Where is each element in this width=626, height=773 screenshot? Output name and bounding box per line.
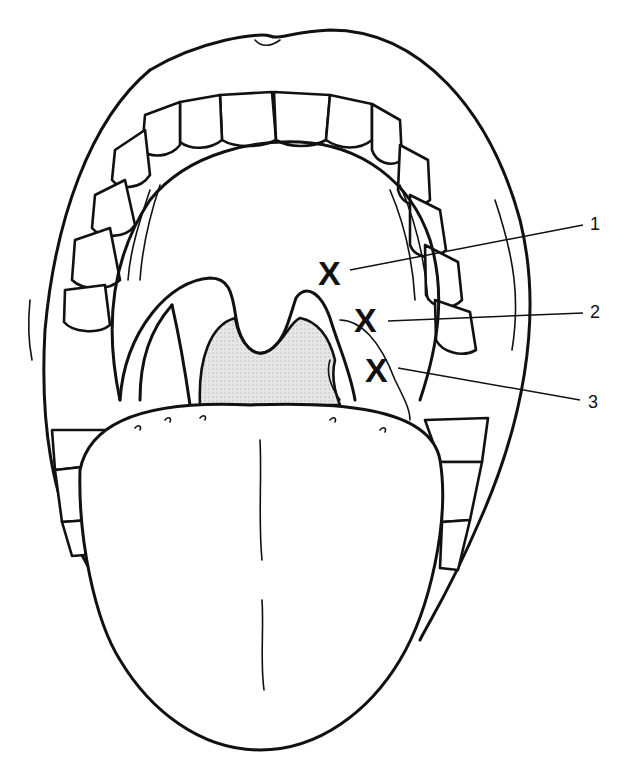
leader-line-1 (350, 225, 583, 270)
leader-line-2 (388, 313, 583, 321)
marker-x-3: X (365, 351, 388, 389)
oropharynx (200, 318, 340, 405)
mouth-diagram: X X X 1 2 3 (0, 0, 626, 773)
label-1: 1 (590, 214, 600, 234)
label-2: 2 (590, 302, 600, 322)
label-3: 3 (588, 392, 598, 412)
tongue (80, 404, 443, 750)
marker-x-2: X (354, 301, 377, 339)
marker-x-1: X (318, 254, 341, 292)
